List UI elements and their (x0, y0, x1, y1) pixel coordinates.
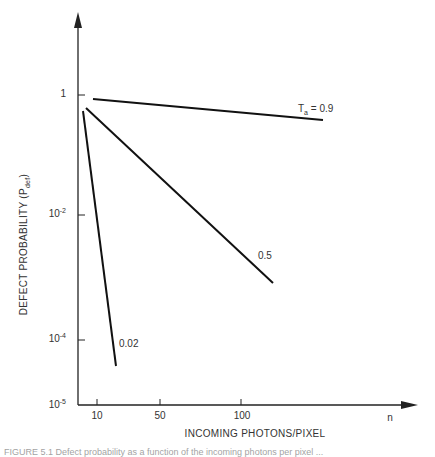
y-axis-title: DEFECT PROBABILITY (Pdef) (18, 165, 31, 325)
series-label-0.02: 0.02 (119, 338, 138, 349)
x-axis-arrow-icon (401, 401, 418, 409)
y-tick-label-1: 1 (26, 88, 66, 99)
x-tick-label-10: 10 (77, 410, 117, 421)
y-axis-arrow-icon (74, 12, 82, 28)
series-label-ta-0.9: Ta = 0.9 (298, 103, 333, 116)
series-line-0.02 (83, 111, 116, 366)
x-tick-label-50: 50 (140, 410, 180, 421)
series-label-0.5: 0.5 (258, 250, 272, 261)
y-tick-label-1e-5: 10-5 (26, 398, 66, 410)
series-line-ta-0.9 (93, 99, 323, 120)
y-tick-label-1e-2: 10-2 (26, 207, 66, 219)
x-axis-title: INCOMING PHOTONS/PIXEL (120, 428, 390, 439)
x-tick-label-100: 100 (222, 410, 262, 421)
series-line-0.5 (86, 108, 273, 283)
y-tick-label-1e-4: 10-4 (26, 332, 66, 344)
x-axis-end-label: n (370, 412, 410, 423)
figure-caption: FIGURE 5.1 Defect probability as a funct… (4, 447, 323, 457)
